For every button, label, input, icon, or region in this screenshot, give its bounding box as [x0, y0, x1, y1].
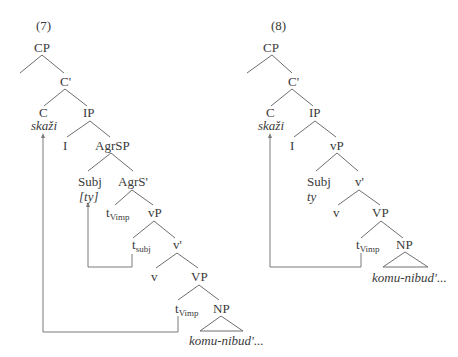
node-i: I: [63, 138, 67, 153]
word-komu-nibud: komu-nibud'...: [189, 333, 264, 348]
node-vp: VP: [191, 269, 208, 284]
edge-agrsbar-vp: [132, 190, 153, 205]
edge-ip-i: [67, 121, 90, 137]
node-v-bar: v': [355, 174, 364, 189]
node-agrsp: AgrSP: [95, 138, 130, 153]
edge-agrsp-subj: [88, 153, 111, 171]
trace-vimp-1: tVimp: [106, 205, 130, 222]
edge-vp-np: [381, 221, 403, 238]
np-triangle: [383, 252, 428, 267]
node-c-bar: C': [60, 74, 71, 89]
edge-vp-np: [199, 285, 219, 300]
word-skazi: skaži: [258, 118, 284, 133]
edge-vbar-vp: [177, 253, 198, 268]
node-v: v: [151, 269, 158, 284]
node-subj: Subj: [78, 174, 102, 189]
node-vp: VP: [372, 205, 389, 220]
edge-vp-tsubj: [133, 221, 154, 238]
word-ty-bracketed: [ty]: [79, 189, 99, 204]
edge-vbar-v: [338, 190, 359, 205]
arrowhead-icon: [268, 133, 272, 138]
example-number-7: (7): [36, 18, 51, 33]
edge-vp-vbar: [337, 153, 358, 171]
word-komu-nibud: komu-nibud'...: [372, 270, 447, 285]
node-i: I: [290, 138, 294, 153]
node-cp: CP: [263, 40, 279, 55]
syntax-trees: (7) CP C' C skaži IP I AgrSP Subj [ty] A…: [0, 0, 458, 357]
node-cp: CP: [34, 40, 50, 55]
edge-cbar-ip: [292, 89, 313, 106]
edge-vp-subj: [316, 153, 337, 171]
edge-cbar-ip: [65, 89, 87, 106]
np-triangle: [200, 316, 243, 331]
word-skazi: skaži: [31, 118, 57, 133]
edge-ip-i: [294, 121, 315, 137]
trace-vimp-2: tVimp: [175, 301, 199, 318]
node-subj: Subj: [307, 174, 331, 189]
edge-cbar-c: [271, 89, 292, 106]
edge-vbar-v: [156, 253, 177, 268]
node-v: v: [333, 205, 340, 220]
node-v-bar: v': [173, 237, 182, 252]
edge-cbar-c: [44, 89, 65, 106]
edge-cp-cbar: [42, 55, 64, 73]
edge-ip-vp: [315, 121, 336, 137]
edge-cp-cbar: [272, 55, 292, 73]
trace-subj: tsubj: [132, 237, 151, 254]
edge-agrsp-agrsbar: [111, 153, 133, 171]
example-number-8: (8): [271, 18, 286, 33]
edge-vbar-vp: [359, 190, 380, 205]
edge-cp-spec: [247, 55, 272, 73]
tree-8: (8) CP C' C skaži IP I vP Subj ty v' v V…: [247, 18, 447, 285]
edge-ip-agrsp: [90, 121, 110, 137]
node-ip: IP: [309, 105, 321, 120]
node-little-vp: vP: [148, 205, 162, 220]
node-agrs-bar: AgrS': [118, 174, 148, 189]
node-np: NP: [396, 237, 413, 252]
word-ty: ty: [307, 189, 317, 204]
arrowhead-icon: [41, 133, 45, 138]
node-ip: IP: [83, 105, 95, 120]
verb-movement-arrow: [43, 136, 178, 332]
edge-vp-tvimp: [178, 285, 199, 300]
edge-agrsbar-t: [115, 190, 132, 205]
trace-vimp: tVimp: [356, 237, 380, 254]
edge-vp-tvimp: [361, 221, 381, 238]
tree-7: (7) CP C' C skaži IP I AgrSP Subj [ty] A…: [20, 18, 264, 348]
edge-cp-spec: [20, 55, 42, 73]
node-little-vp: vP: [330, 138, 344, 153]
node-np: NP: [213, 301, 230, 316]
node-c-bar: C': [288, 74, 299, 89]
edge-vp-vbar: [154, 221, 175, 238]
